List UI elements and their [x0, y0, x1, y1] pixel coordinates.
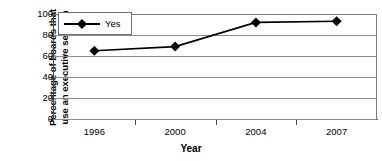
gridline-40	[54, 77, 377, 78]
y-tick-label-60: 60	[31, 51, 53, 61]
y-tick-label-0: 0	[31, 114, 53, 124]
legend-label-yes: Yes	[105, 19, 121, 29]
gridline-60	[54, 56, 377, 57]
line-chart: Percentage of boards that use an executi…	[0, 0, 382, 161]
x-axis-title: Year	[0, 143, 382, 154]
gridline-20	[54, 98, 377, 99]
legend-marker-icon	[64, 18, 100, 29]
x-tick-mark-3	[296, 120, 297, 125]
y-tick-label-100: 100	[31, 9, 53, 19]
x-tick-label-2000: 2000	[150, 127, 200, 137]
y-tick-label-40: 40	[31, 72, 53, 82]
y-tick-label-20: 20	[31, 93, 53, 103]
y-tick-label-80: 80	[31, 30, 53, 40]
x-tick-mark-2	[216, 120, 217, 125]
legend[interactable]: Yes	[58, 12, 132, 35]
x-tick-label-1996: 1996	[69, 127, 119, 137]
x-tick-label-2004: 2004	[231, 127, 281, 137]
y-axis-line	[53, 13, 54, 120]
gridline-80	[54, 35, 377, 36]
x-tick-mark-1	[135, 120, 136, 125]
x-tick-label-2007: 2007	[312, 127, 362, 137]
